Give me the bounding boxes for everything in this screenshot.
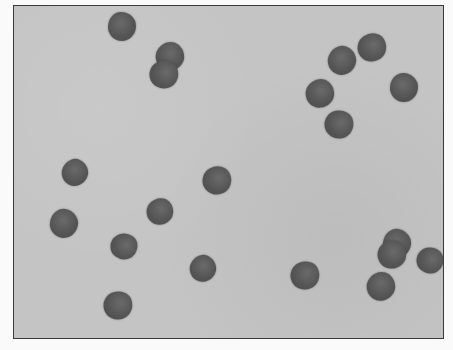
cell xyxy=(361,266,401,306)
cell xyxy=(100,287,136,322)
cell xyxy=(57,154,92,190)
cell xyxy=(108,12,136,41)
cell xyxy=(352,27,391,66)
cell xyxy=(197,161,236,199)
cell xyxy=(322,107,356,140)
cell xyxy=(388,71,418,102)
cell xyxy=(323,41,360,78)
cell xyxy=(286,257,323,294)
cell xyxy=(109,232,139,261)
cell xyxy=(416,247,443,273)
cell xyxy=(141,192,178,229)
micrograph-field xyxy=(13,5,444,339)
cell xyxy=(299,73,339,113)
cell xyxy=(47,206,80,239)
cell xyxy=(184,250,220,287)
